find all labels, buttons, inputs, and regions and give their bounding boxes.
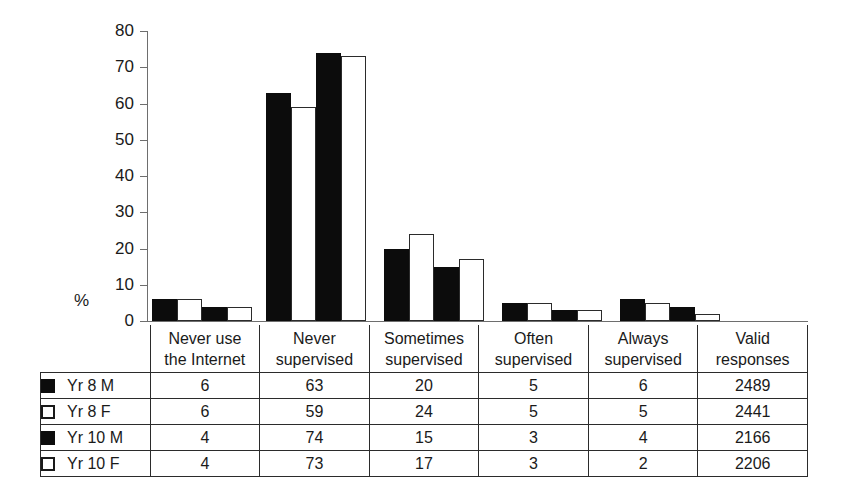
table-cell: 2441	[698, 399, 808, 425]
table-row: Yr 8 F65924552441	[41, 399, 808, 425]
table-body: Yr 8 M66320562489Yr 8 F65924552441Yr 10 …	[41, 373, 808, 477]
bar	[527, 303, 552, 321]
table-column-header-line2: supervised	[370, 349, 479, 370]
table-header: Never usethe InternetNeversupervisedSome…	[41, 325, 808, 373]
table-cell: 24	[369, 399, 479, 425]
legend-entry: Yr 10 M	[41, 425, 150, 450]
bar	[177, 299, 202, 321]
legend-row-label-cell: Yr 10 M	[41, 425, 151, 451]
legend-swatch-outline-icon	[41, 405, 55, 419]
table-cell: 63	[260, 373, 370, 399]
bar	[434, 267, 459, 321]
table-cell: 2489	[698, 373, 808, 399]
legend-row-label-cell: Yr 8 M	[41, 373, 151, 399]
bar	[384, 249, 409, 322]
legend-swatch-filled-icon	[41, 431, 55, 445]
x-axis-baseline	[140, 321, 808, 322]
table-column-header-line1: Never	[260, 328, 369, 349]
table-column-header-line1: Always	[589, 328, 698, 349]
table-row: Yr 10 F47317322206	[41, 451, 808, 477]
table-cell: 3	[479, 451, 589, 477]
table-cell: 6	[150, 399, 260, 425]
table-column-header-line2: responses	[698, 349, 807, 370]
legend-entry: Yr 10 F	[41, 451, 150, 476]
table-row: Yr 10 M47415342166	[41, 425, 808, 451]
table-cell: 20	[369, 373, 479, 399]
table-cell: 6	[150, 373, 260, 399]
bar-group	[502, 31, 606, 321]
table-column-header: Validresponses	[698, 325, 808, 373]
table-column-header: Alwayssupervised	[588, 325, 698, 373]
table-column-header-line2: supervised	[260, 349, 369, 370]
data-table: Never usethe InternetNeversupervisedSome…	[40, 325, 808, 477]
table-column-header: Never usethe Internet	[150, 325, 260, 373]
table-column-header-line1: Valid	[698, 328, 807, 349]
bar	[341, 56, 366, 321]
bar	[459, 259, 484, 321]
legend-entry: Yr 8 M	[41, 373, 150, 398]
y-axis-tick-mark	[140, 321, 148, 322]
bar	[316, 53, 341, 321]
bar	[502, 303, 527, 321]
table-column-header-line2: supervised	[479, 349, 588, 370]
legend-swatch-outline-icon	[41, 457, 55, 471]
table-cell: 3	[479, 425, 589, 451]
table-cell: 17	[369, 451, 479, 477]
bar-group	[152, 31, 256, 321]
table-cell: 5	[479, 399, 589, 425]
table-cell: 2206	[698, 451, 808, 477]
legend-series-label: Yr 10 M	[67, 425, 123, 450]
table-column-header: Oftensupervised	[479, 325, 589, 373]
legend-entry: Yr 8 F	[41, 399, 150, 424]
legend-header-corner	[41, 325, 151, 373]
bars-layer	[0, 31, 851, 321]
table-column-header: Neversupervised	[260, 325, 370, 373]
table-cell: 5	[479, 373, 589, 399]
bar	[645, 303, 670, 321]
bar	[409, 234, 434, 321]
table-column-header-line1: Often	[479, 328, 588, 349]
table-column-header-line1: Sometimes	[370, 328, 479, 349]
table-cell: 6	[588, 373, 698, 399]
bar	[620, 299, 645, 321]
table-cell: 2	[588, 451, 698, 477]
bar	[202, 307, 227, 322]
bar	[291, 107, 316, 321]
table-cell: 59	[260, 399, 370, 425]
legend-series-label: Yr 8 F	[67, 399, 111, 424]
bar	[552, 310, 577, 321]
legend-row-label-cell: Yr 8 F	[41, 399, 151, 425]
table-cell: 4	[150, 451, 260, 477]
legend-series-label: Yr 8 M	[67, 373, 114, 398]
table-column-header: Sometimessupervised	[369, 325, 479, 373]
table-cell: 73	[260, 451, 370, 477]
bar	[695, 314, 720, 321]
table-column-header-line2: the Internet	[151, 349, 260, 370]
legend-swatch-filled-icon	[41, 379, 55, 393]
table-cell: 2166	[698, 425, 808, 451]
table-row: Yr 8 M66320562489	[41, 373, 808, 399]
bar-group	[384, 31, 488, 321]
table-header-row: Never usethe InternetNeversupervisedSome…	[41, 325, 808, 373]
bar	[266, 93, 291, 321]
plot-area: 80706050403020100 %	[0, 0, 851, 330]
table-cell: 4	[150, 425, 260, 451]
table-cell: 74	[260, 425, 370, 451]
bar-group	[620, 31, 724, 321]
bar-group	[266, 31, 370, 321]
bar-chart-figure: 80706050403020100 % Never usethe Interne…	[0, 0, 851, 487]
legend-row-label-cell: Yr 10 F	[41, 451, 151, 477]
bar	[227, 307, 252, 322]
table-cell: 5	[588, 399, 698, 425]
bar	[577, 310, 602, 321]
table-cell: 15	[369, 425, 479, 451]
table-column-header-line2: supervised	[589, 349, 698, 370]
legend-series-label: Yr 10 F	[67, 451, 119, 476]
table-column-header-line1: Never use	[151, 328, 260, 349]
table-cell: 4	[588, 425, 698, 451]
bar	[152, 299, 177, 321]
bar	[670, 307, 695, 322]
